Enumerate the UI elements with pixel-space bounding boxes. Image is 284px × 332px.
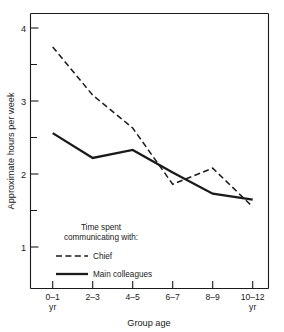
y-axis-title: Approximate hours per week bbox=[6, 92, 16, 209]
series-group bbox=[53, 47, 253, 207]
y-minor-ticks bbox=[31, 65, 38, 211]
x-tick-label-2: 4–5 bbox=[126, 292, 141, 302]
legend-label-chief: Chief bbox=[93, 252, 113, 261]
series-line-main-colleagues bbox=[53, 133, 253, 199]
y-tick-label-1: 1 bbox=[21, 243, 26, 253]
x-axis-title: Group age bbox=[127, 318, 170, 328]
x-tick-labels: 0–1 yr 2–3 4–5 6–7 8–9 10–12 yr bbox=[46, 292, 265, 312]
legend-title-line1: Time spent bbox=[81, 223, 122, 232]
y-tick-label-2: 2 bbox=[21, 170, 26, 180]
x-tick-label-1: 2–3 bbox=[86, 292, 101, 302]
y-tick-label-4: 4 bbox=[21, 24, 26, 34]
y-tick-labels: 4 3 2 1 bbox=[21, 24, 26, 253]
x-tick-label-5-unit: yr bbox=[249, 302, 256, 312]
y-tick-label-3: 3 bbox=[21, 97, 26, 107]
x-tick-label-5: 10–12 bbox=[241, 292, 265, 302]
legend-title-line2: communicating with: bbox=[64, 233, 138, 242]
chart-figure: 4 3 2 1 0–1 yr 2–3 4–5 6–7 8–9 10–12 yr bbox=[0, 0, 284, 332]
series-line-chief bbox=[53, 47, 253, 207]
chart-svg: 4 3 2 1 0–1 yr 2–3 4–5 6–7 8–9 10–12 yr bbox=[0, 0, 284, 332]
x-tick-label-3: 6–7 bbox=[166, 292, 181, 302]
x-ticks bbox=[53, 281, 253, 289]
x-tick-label-0-unit: yr bbox=[49, 302, 56, 312]
x-tick-label-0: 0–1 bbox=[46, 292, 61, 302]
x-tick-label-4: 8–9 bbox=[206, 292, 221, 302]
legend-label-main-colleagues: Main colleagues bbox=[93, 270, 152, 279]
chart-legend: Time spent communicating with: Chief Mai… bbox=[56, 223, 152, 279]
